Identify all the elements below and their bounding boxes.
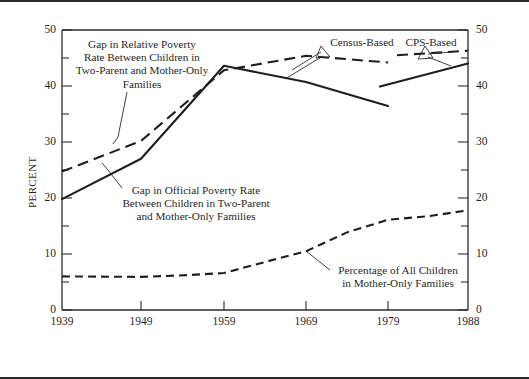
y-label-left-10: 10 [30, 247, 56, 261]
y-label-left-30: 30 [30, 135, 56, 149]
series-official-poverty-gap-cps [380, 64, 468, 87]
y-label-right-20: 20 [476, 191, 502, 205]
x-axis-ticks [141, 301, 388, 310]
census-based-label: Census-Based [323, 36, 401, 49]
relative-poverty-gap-label: Gap in Relative Poverty Rate Between Chi… [62, 38, 222, 91]
y-label-left-50: 50 [30, 23, 56, 37]
y-label-left-20: 20 [30, 191, 56, 205]
official-poverty-gap-label: Gap in Official Poverty Rate Between Chi… [112, 184, 280, 224]
y-label-left-40: 40 [30, 79, 56, 93]
x-label-1959: 1959 [201, 315, 247, 329]
cps-based-label: CPS-Based [398, 36, 464, 49]
y-label-right-50: 50 [476, 23, 502, 37]
x-label-1988: 1988 [445, 315, 491, 329]
x-label-1979: 1979 [365, 315, 411, 329]
poverty-gap-figure: PERCENT 50 40 30 20 10 0 50 40 30 20 10 … [0, 0, 529, 379]
series-relative-poverty-gap-cps [397, 51, 468, 56]
x-label-1949: 1949 [118, 315, 164, 329]
y-label-right-40: 40 [476, 79, 502, 93]
y-label-right-30: 30 [476, 135, 502, 149]
leader-mother-only-share [306, 251, 330, 270]
x-label-1939: 1939 [39, 315, 85, 329]
leader-census-based [285, 46, 330, 79]
x-label-1969: 1969 [283, 315, 329, 329]
leader-relative-poverty-gap [113, 92, 127, 144]
y-label-right-10: 10 [476, 247, 502, 261]
mother-only-share-label: Percentage of All Children in Mother-Onl… [331, 264, 465, 290]
